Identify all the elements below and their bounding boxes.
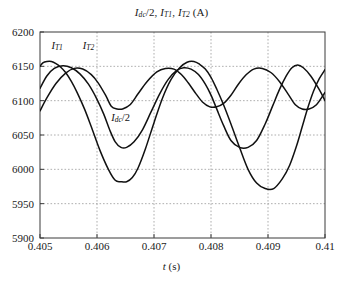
label-it2-sub: T2 [86, 43, 94, 52]
grid-group [40, 32, 325, 238]
curve-label-idc: Idc/2 [111, 112, 130, 124]
vertical-gridlines [97, 32, 268, 238]
y-tick-label: 5950 [0, 198, 34, 210]
x-tick-label: 0.408 [199, 240, 224, 252]
label-idc-sub: dc [115, 115, 122, 124]
figure-container: Idc/2, IT1, IT2 (A) 59005950600060506100… [0, 0, 343, 286]
y-tick-label: 6050 [0, 129, 34, 141]
x-tick-label: 0.405 [28, 240, 53, 252]
y-tick-label: 6100 [0, 95, 34, 107]
x-tick-label: 0.406 [85, 240, 110, 252]
x-axis-label: t (s) [0, 260, 343, 272]
label-it1-sub: T1 [55, 43, 63, 52]
data-curves [40, 61, 325, 189]
horizontal-gridlines [40, 66, 325, 203]
x-tick-label: 0.41 [315, 240, 334, 252]
curve-it1 [40, 61, 325, 189]
y-tick-label: 6200 [0, 26, 34, 38]
curve-label-it2: IT2 [83, 40, 94, 52]
label-idc-tail: /2 [122, 112, 130, 123]
curve-label-it1: IT1 [51, 40, 62, 52]
x-tick-label: 0.407 [142, 240, 167, 252]
x-axis-unit: (s) [166, 260, 180, 272]
x-tick-label: 0.409 [256, 240, 281, 252]
y-tick-label: 6000 [0, 163, 34, 175]
y-tick-label: 6150 [0, 60, 34, 72]
